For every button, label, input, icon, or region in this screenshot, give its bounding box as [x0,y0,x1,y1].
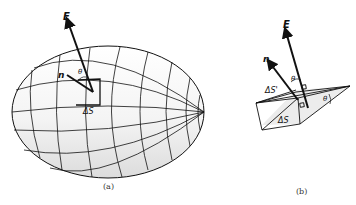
ellipsoid-surface [12,46,204,178]
field-label-b: E [283,20,290,30]
angle-label-top-b: θ [291,76,295,83]
normal-label-b: n [263,55,269,64]
area-prime-label-b: ΔS' [265,87,278,95]
caption-a: (a) [103,183,114,191]
diagram-canvas [0,0,356,205]
normal-label-a: n [58,71,64,80]
angle-label-side-b: θ [323,96,327,103]
area-label-b: ΔS [278,117,289,125]
angle-label-a: θ [78,69,82,76]
area-label-a: ΔS [83,108,94,116]
field-label-a: E [63,12,70,22]
caption-b: (b) [296,188,307,196]
